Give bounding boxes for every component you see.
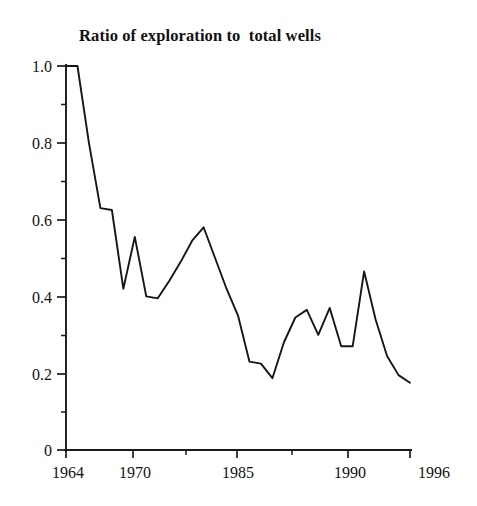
y-tick-label-0-8: 0.8: [32, 135, 52, 152]
x-tick-label-1964: 1964: [52, 464, 84, 481]
y-tick-label-0-6: 0.6: [32, 212, 52, 229]
x-tick-label-1996: 1996: [418, 464, 450, 481]
line-chart-plot: 1.0 0.8 0.6 0.4 0.2 0 1964 1970 1985 199…: [0, 0, 477, 506]
x-tick-label-1970: 1970: [119, 464, 151, 481]
data-series-line: [66, 66, 410, 383]
x-tick-label-1985: 1985: [222, 464, 254, 481]
chart-figure: Ratio of exploration to total wells 1.0 …: [0, 0, 477, 506]
x-axis-ticks: [66, 450, 410, 458]
y-tick-label-1-0: 1.0: [32, 58, 52, 75]
y-tick-label-0: 0: [44, 442, 52, 459]
x-tick-label-1990: 1990: [334, 464, 366, 481]
y-tick-label-0-2: 0.2: [32, 366, 52, 383]
y-tick-label-0-4: 0.4: [32, 289, 52, 306]
